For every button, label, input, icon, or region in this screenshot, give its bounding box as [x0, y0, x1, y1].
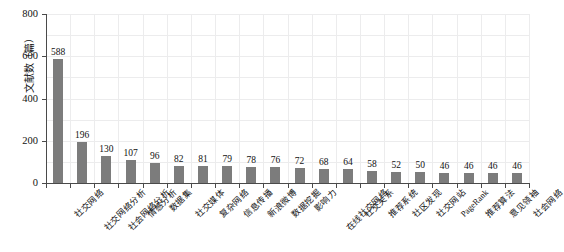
- y-tick-mark: [42, 141, 46, 142]
- bar: [270, 167, 280, 183]
- x-tick-mark: [239, 184, 240, 188]
- bar: [198, 166, 208, 183]
- bar: [415, 172, 425, 183]
- y-tick-label: 400: [0, 94, 38, 104]
- x-tick-mark: [288, 184, 289, 188]
- gridline-vertical: [408, 14, 409, 183]
- x-tick-mark: [191, 184, 192, 188]
- gridline-vertical: [384, 14, 385, 183]
- bar: [488, 173, 498, 183]
- x-tick-mark: [215, 184, 216, 188]
- x-tick-mark: [312, 184, 313, 188]
- bar-value-label: 588: [44, 48, 72, 57]
- bar: [295, 168, 305, 183]
- x-tick-mark: [432, 184, 433, 188]
- bar: [246, 167, 256, 183]
- bar: [101, 156, 111, 183]
- bar: [77, 142, 87, 183]
- y-tick-mark: [42, 99, 46, 100]
- x-tick-mark: [457, 184, 458, 188]
- x-tick-mark: [46, 184, 47, 188]
- y-tick-label: 600: [0, 51, 38, 61]
- bar: [343, 169, 353, 183]
- gridline-vertical: [94, 14, 95, 183]
- x-tick-mark: [384, 184, 385, 188]
- bar: [512, 173, 522, 183]
- gridline-vertical: [457, 14, 458, 183]
- x-tick-mark: [94, 184, 95, 188]
- y-axis-title: 文献数（篇）: [25, 3, 35, 123]
- gridline-vertical: [505, 14, 506, 183]
- bar: [391, 172, 401, 183]
- x-tick-mark: [118, 184, 119, 188]
- x-tick-mark: [167, 184, 168, 188]
- bar: [126, 160, 136, 183]
- x-tick-mark: [70, 184, 71, 188]
- bar: [367, 171, 377, 183]
- gridline-vertical: [481, 14, 482, 183]
- x-tick-mark: [336, 184, 337, 188]
- bar: [150, 163, 160, 183]
- y-tick-label: 800: [0, 9, 38, 19]
- bar-value-label: 46: [503, 162, 531, 171]
- gridline-vertical: [529, 14, 530, 183]
- bar: [222, 166, 232, 183]
- x-tick-mark: [360, 184, 361, 188]
- gridline-vertical: [432, 14, 433, 183]
- x-tick-mark: [529, 184, 530, 188]
- bar: [53, 59, 63, 183]
- bar: [464, 173, 474, 183]
- y-tick-label: 0: [0, 178, 38, 188]
- bar: [174, 166, 184, 183]
- bar: [439, 173, 449, 183]
- x-tick-mark: [263, 184, 264, 188]
- y-tick-label: 200: [0, 136, 38, 146]
- y-axis-line: [46, 14, 47, 184]
- gridline-vertical: [70, 14, 71, 183]
- x-tick-mark: [408, 184, 409, 188]
- bar: [319, 169, 329, 183]
- bar-value-label: 196: [68, 131, 96, 140]
- x-tick-mark: [143, 184, 144, 188]
- x-axis-label: 社交网络: [74, 188, 106, 220]
- y-tick-mark: [42, 14, 46, 15]
- x-tick-mark: [505, 184, 506, 188]
